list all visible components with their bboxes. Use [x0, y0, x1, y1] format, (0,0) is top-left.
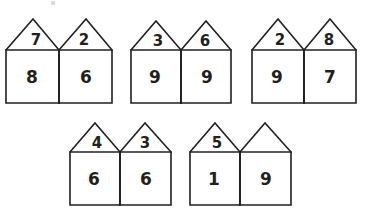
scan-artifact-speck: [51, 1, 55, 5]
house-pair-4-left-roof-digit: 4: [92, 134, 102, 152]
house-pair-1-left-body-digit: 8: [26, 67, 38, 87]
house-pair-3-right-roof-digit: 8: [324, 31, 334, 49]
house-pair-3: 2 8 9 7: [252, 19, 356, 103]
house-pair-2-right-roof-digit: 6: [200, 32, 210, 50]
house-pair-5-right-body-digit: 9: [260, 169, 272, 189]
house-pair-2: 3 6 9 9: [131, 21, 231, 103]
house-pair-3-right-body-digit: 7: [324, 67, 336, 87]
houses-canvas: 7 2 8 6 3 6 9 9 2 8 9 7: [0, 0, 366, 218]
house-pair-1-right-roof-digit: 2: [79, 31, 89, 49]
house-pair-5-left-body-digit: 1: [208, 169, 220, 189]
house-pair-3-left-roof-digit: 2: [275, 31, 285, 49]
house-pair-3-left-body-digit: 9: [271, 67, 283, 87]
house-pair-4-right-roof-digit: 3: [140, 134, 150, 152]
house-pair-4-right-body-digit: 6: [140, 169, 152, 189]
house-pair-2-right-body-digit: 9: [201, 67, 213, 87]
house-pair-2-left-roof-digit: 3: [153, 32, 163, 50]
house-pair-2-left-body-digit: 9: [149, 67, 161, 87]
house-pair-4-left-body-digit: 6: [88, 169, 100, 189]
house-pair-1: 7 2 8 6: [6, 19, 112, 103]
number-houses-worksheet: 7 2 8 6 3 6 9 9 2 8 9 7: [0, 0, 366, 218]
house-pair-5-right-outline: [240, 123, 291, 205]
house-pair-5-left-roof-digit: 5: [212, 134, 222, 152]
house-pair-1-left-roof-digit: 7: [31, 31, 41, 49]
house-pair-1-right-body-digit: 6: [80, 67, 92, 87]
house-pair-4: 4 3 6 6: [70, 123, 171, 205]
house-pair-5: 5 1 9: [190, 123, 291, 205]
